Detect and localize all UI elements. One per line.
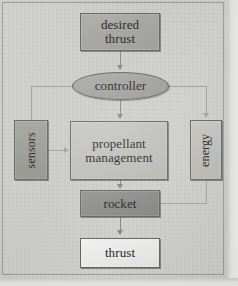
node-sensors[interactable]: sensors bbox=[14, 120, 48, 180]
edge-energy-to-rocket-vertical bbox=[206, 180, 207, 204]
node-label-thrust: thrust bbox=[105, 246, 135, 260]
arrowhead-propellant-in bbox=[117, 114, 123, 119]
arrowhead-controller-in bbox=[117, 65, 123, 70]
node-thrust[interactable]: thrust bbox=[80, 238, 160, 268]
node-label-sensors: sensors bbox=[25, 132, 38, 168]
page-margin-bottom bbox=[0, 278, 238, 286]
edge-energy-to-rocket-horizontal bbox=[160, 203, 206, 204]
node-desired-thrust[interactable]: desired thrust bbox=[80, 13, 160, 51]
edge-sensors-to-controller-horizontal bbox=[31, 86, 76, 87]
arrowhead-rocket-in bbox=[117, 184, 123, 189]
node-energy[interactable]: energy bbox=[190, 120, 222, 180]
node-controller[interactable]: controller bbox=[72, 72, 169, 100]
node-propellant-management[interactable]: propellant management bbox=[70, 121, 168, 180]
arrowhead-thrust-in bbox=[117, 230, 123, 235]
node-label-controller: controller bbox=[95, 79, 147, 93]
edge-controller-to-energy-vertical bbox=[206, 86, 207, 114]
edge-desired-thrust-to-controller bbox=[120, 51, 121, 66]
edge-controller-to-propellant bbox=[120, 100, 121, 115]
node-label-desired-thrust: desired thrust bbox=[101, 18, 139, 46]
node-label-propellant-management: propellant management bbox=[85, 137, 152, 165]
edge-sensors-to-propellant bbox=[48, 150, 64, 151]
arrowhead-energy-in bbox=[203, 113, 209, 118]
page-margin-right bbox=[227, 0, 238, 286]
node-label-rocket: rocket bbox=[103, 197, 136, 211]
node-label-energy: energy bbox=[200, 133, 213, 166]
node-rocket[interactable]: rocket bbox=[80, 190, 160, 217]
edge-sensors-to-controller-vertical bbox=[31, 86, 32, 120]
edge-rocket-to-thrust bbox=[120, 217, 121, 231]
diagram-canvas: desired thrust controller sensors propel… bbox=[0, 0, 238, 286]
arrowhead-propellant-left-in bbox=[64, 147, 69, 153]
edge-controller-to-energy-horizontal bbox=[168, 86, 206, 87]
